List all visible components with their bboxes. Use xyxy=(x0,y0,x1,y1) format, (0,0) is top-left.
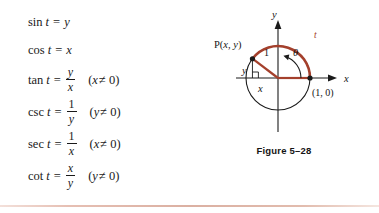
rhs-sin: y xyxy=(64,15,70,30)
variable-t-cos: t xyxy=(48,43,51,58)
x-axis-arrowhead-icon xyxy=(328,75,337,82)
fraction-denominator-csc: y xyxy=(67,113,76,125)
fraction-denominator-sec: x xyxy=(67,145,76,157)
fraction-tan: y x xyxy=(66,66,75,92)
condition-rest-csc: ≠ 0) xyxy=(99,105,121,119)
angle-theta-label: θ xyxy=(293,47,298,58)
equals-sign-sec: = xyxy=(54,137,61,152)
variable-t-sin: t xyxy=(46,15,49,30)
arc-t-label: t xyxy=(314,30,317,40)
unit-circle-diagram: y x P(x, y) (1, 0) 1 y x θ t xyxy=(196,4,372,144)
fraction-numerator-cot: x xyxy=(66,162,75,174)
variable-t-cot: t xyxy=(46,169,49,184)
right-angle-marker-icon xyxy=(252,72,258,78)
y-axis-label: y xyxy=(271,9,277,20)
equals-sign-sin: = xyxy=(53,15,60,30)
function-name-sin: sin xyxy=(28,15,43,30)
formula-row-sin: sin t = y xyxy=(28,8,188,36)
condition-rest-cot: ≠ 0) xyxy=(98,169,120,183)
figure-caption: Figure 5–28 xyxy=(196,145,372,156)
formula-row-csc: csc t = 1 y (y≠ 0) xyxy=(28,96,188,128)
fraction-numerator-tan: y xyxy=(66,66,75,78)
function-name-cos: cos xyxy=(28,43,45,58)
radius-length-label: 1 xyxy=(264,47,269,58)
x-axis-label: x xyxy=(343,73,349,84)
page-root: sin t = y cos t = x tan t = y x (x≠ 0) c… xyxy=(0,0,379,213)
fraction-sec: 1 x xyxy=(67,130,77,156)
fraction-denominator-cot: y xyxy=(66,177,75,189)
condition-rest-sec: ≠ 0) xyxy=(99,137,121,151)
point-p-label: P(x, y) xyxy=(214,39,242,51)
condition-rest-tan: ≠ 0) xyxy=(98,73,120,87)
condition-sec: (x≠ 0) xyxy=(90,137,122,152)
arc-t-highlight xyxy=(252,46,310,78)
variable-t-csc: t xyxy=(47,105,50,120)
formula-row-sec: sec t = 1 x (x≠ 0) xyxy=(28,128,188,160)
formula-row-cot: cot t = x y (y≠ 0) xyxy=(28,160,188,192)
point-unit-label: (1, 0) xyxy=(312,87,334,99)
equals-sign-tan: = xyxy=(54,73,61,88)
point-p-label-close: ) xyxy=(238,39,242,51)
variable-t-sec: t xyxy=(47,137,50,152)
bottom-divider-rule xyxy=(0,205,379,207)
leg-horizontal-label: x xyxy=(257,83,263,94)
function-name-tan: tan xyxy=(28,73,43,88)
formula-row-cos: cos t = x xyxy=(28,36,188,64)
fraction-numerator-sec: 1 xyxy=(67,130,77,142)
leg-vertical-label: y xyxy=(241,65,247,76)
condition-tan: (x≠ 0) xyxy=(88,73,120,88)
angle-theta-arrowhead-icon xyxy=(283,55,289,61)
formula-row-tan: tan t = y x (x≠ 0) xyxy=(28,64,188,96)
function-name-csc: csc xyxy=(28,105,44,120)
rhs-cos: x xyxy=(66,43,72,58)
unit-circle-figure: y x P(x, y) (1, 0) 1 y x θ t Figure 5–28 xyxy=(196,4,372,184)
fraction-csc: 1 y xyxy=(67,98,77,124)
condition-cot: (y≠ 0) xyxy=(88,169,120,184)
function-name-sec: sec xyxy=(28,137,44,152)
function-name-cot: cot xyxy=(28,169,43,184)
trig-formula-list: sin t = y cos t = x tan t = y x (x≠ 0) c… xyxy=(28,8,188,192)
y-axis-arrowhead-icon xyxy=(275,20,282,29)
equals-sign-cot: = xyxy=(54,169,61,184)
point-unit-marker xyxy=(307,75,312,80)
equals-sign-csc: = xyxy=(54,105,61,120)
point-p-marker xyxy=(250,56,255,61)
fraction-denominator-tan: x xyxy=(66,81,75,93)
radius-terminal-side xyxy=(252,59,278,78)
condition-csc: (y≠ 0) xyxy=(90,105,122,120)
variable-t-tan: t xyxy=(46,73,49,88)
fraction-cot: x y xyxy=(66,162,75,188)
fraction-numerator-csc: 1 xyxy=(67,98,77,110)
equals-sign-cos: = xyxy=(55,43,62,58)
